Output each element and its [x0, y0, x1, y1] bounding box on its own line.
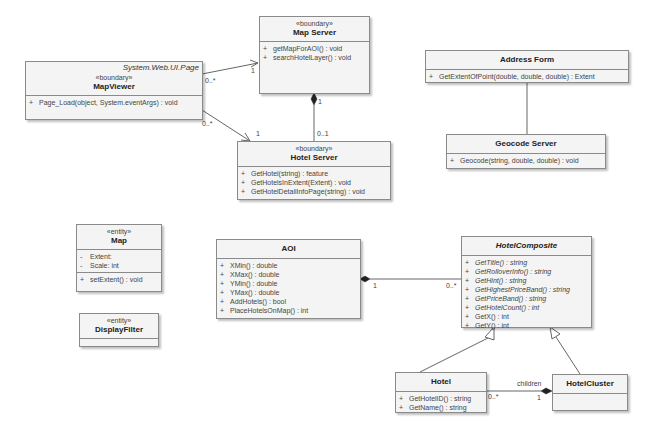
class-name: Address Form [429, 55, 625, 65]
mult-label: 0..1 [317, 130, 329, 137]
mult-label: 0..* [202, 120, 213, 127]
operations-section: +setExtent() : void [77, 273, 161, 286]
operation: +GetHotel(string) : feature [241, 169, 387, 178]
class-name: AOI [220, 244, 357, 254]
class-geocode-server[interactable]: Geocode Server +Geocode(string, double, … [446, 134, 606, 169]
class-name: Geocode Server [450, 139, 602, 149]
class-aoi[interactable]: AOI +XMin() : double +XMax() : double +Y… [216, 239, 361, 319]
stereotype: «entity» [83, 316, 155, 325]
mult-label: 1 [537, 394, 541, 401]
operation: +YMax() : double [220, 288, 357, 297]
operation: +PlaceHotelsOnMap() : int [220, 306, 357, 315]
operation: +GetY() : int [465, 321, 588, 330]
class-name: Map Server [263, 28, 366, 38]
operations-section: +XMin() : double +XMax() : double +YMin(… [217, 259, 360, 317]
operations-section: +GetHotel(string) : feature +GetHotelsIn… [238, 167, 390, 198]
parent-class-label: System.Web.UI.Page [29, 63, 199, 73]
empty-section [80, 339, 158, 349]
class-display-filter[interactable]: «entity» DisplayFilter [79, 313, 159, 347]
mult-label: 0..* [446, 282, 457, 289]
mult-label: 1 [251, 67, 255, 74]
empty-section [553, 394, 627, 404]
generalization-hotel [420, 337, 490, 372]
class-hotel-server[interactable]: «boundary» Hotel Server +GetHotel(string… [237, 141, 391, 200]
stereotype: «entity» [80, 227, 158, 236]
operation: +Page_Load(object, System.eventArgs) : v… [29, 98, 199, 107]
class-map-server[interactable]: «boundary» Map Server +getMapForAOI() : … [259, 16, 370, 94]
stereotype: «boundary» [241, 144, 387, 153]
association-mapviewer-mapserver [202, 63, 258, 74]
generalization-hotelcluster [556, 337, 580, 374]
class-name: Map [80, 236, 158, 246]
operation: +GetExtentOfPoint(double, double, double… [429, 72, 625, 81]
operation: +GetHotelsInExtent(Extent) : void [241, 178, 387, 187]
operation: +GetTitle() : string [465, 258, 588, 267]
class-name: DisplayFilter [83, 325, 155, 335]
stereotype: «boundary» [263, 19, 366, 28]
operation: +setExtent() : void [80, 275, 158, 284]
class-name: HotelComposite [465, 241, 588, 251]
class-name: MapViewer [29, 82, 199, 92]
operation: +GetX() : int [465, 312, 588, 321]
operation: +GetRolloverInfo() : string [465, 267, 588, 276]
operation: +XMax() : double [220, 270, 357, 279]
operation: +XMin() : double [220, 261, 357, 270]
operations-section: +GetTitle() : string +GetRolloverInfo() … [462, 256, 591, 332]
operation: +GetPriceBand() : string [465, 294, 588, 303]
operation: +GetHighestPriceBand() : string [465, 285, 588, 294]
attributes-section: -Extent: -Scale: int [77, 250, 161, 273]
mult-label: 1 [373, 282, 377, 289]
operations-section: +GetHotelID() : string +GetName() : stri… [396, 392, 486, 414]
class-hotel-cluster[interactable]: HotelCluster [552, 374, 628, 411]
composition-diamond-icon [360, 276, 370, 282]
stereotype: «boundary» [29, 73, 199, 82]
composition-diamond-icon [311, 93, 317, 105]
operation: +GetHotelDetailInfoPage(string) : void [241, 187, 387, 196]
class-hotel-composite[interactable]: HotelComposite +GetTitle() : string +Get… [461, 236, 592, 328]
class-name: Hotel [399, 377, 483, 387]
operations-section: +getMapForAOI() : void +searchHotelLayer… [260, 42, 369, 64]
mult-label: 1 [318, 98, 322, 105]
operation: +Geocode(string, double, double) : void [450, 156, 602, 165]
operation: +GetHotelID() : string [399, 394, 483, 403]
operation: +GetHotelCount() : int [465, 303, 588, 312]
operations-section: +Geocode(string, double, double) : void [447, 154, 605, 167]
operation: +searchHotelLayer() : void [263, 53, 366, 62]
mult-label: 0..* [488, 393, 499, 400]
attribute: -Extent: [80, 252, 158, 261]
composition-diamond-icon [541, 388, 552, 394]
operations-section: +Page_Load(object, System.eventArgs) : v… [26, 96, 202, 109]
attribute: -Scale: int [80, 261, 158, 270]
operation: +AddHotels() : bool [220, 297, 357, 306]
class-map[interactable]: «entity» Map -Extent: -Scale: int +setEx… [76, 224, 162, 292]
mult-label: 1 [256, 130, 260, 137]
class-address-form[interactable]: Address Form +GetExtentOfPoint(double, d… [425, 50, 629, 83]
class-mapviewer[interactable]: System.Web.UI.Page «boundary» MapViewer … [25, 61, 203, 120]
mult-label: 0..* [205, 77, 216, 84]
operations-section: +GetExtentOfPoint(double, double, double… [426, 70, 628, 83]
class-name: Hotel Server [241, 153, 387, 163]
operation: +GetHint() : string [465, 276, 588, 285]
class-hotel[interactable]: Hotel +GetHotelID() : string +GetName() … [395, 372, 487, 413]
operation: +YMin() : double [220, 279, 357, 288]
role-label: children [517, 380, 542, 387]
class-name: HotelCluster [556, 379, 624, 389]
operation: +GetName() : string [399, 403, 483, 412]
operation: +getMapForAOI() : void [263, 44, 366, 53]
